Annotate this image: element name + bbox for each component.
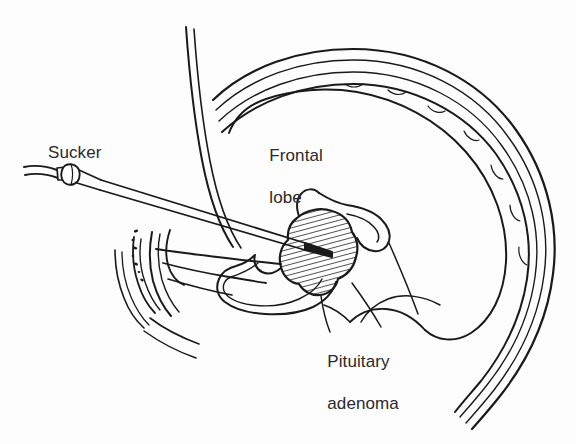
nasal-roof-upper bbox=[156, 249, 281, 264]
sucker-taper-upper bbox=[79, 170, 101, 180]
figure-canvas: Sucker Frontal lobe Pituitary adenoma bbox=[0, 0, 576, 444]
label-frontal-lobe-line1: Frontal bbox=[269, 146, 323, 165]
sucker-taper-lower bbox=[77, 183, 100, 190]
brain-undersurface bbox=[350, 309, 425, 330]
leader-line-sella-right bbox=[389, 243, 418, 314]
palate-lower bbox=[144, 331, 196, 358]
label-sucker: Sucker bbox=[48, 142, 102, 163]
sucker-hub bbox=[61, 164, 80, 185]
label-pituitary-adenoma-line2: adenoma bbox=[327, 394, 399, 413]
label-pituitary-adenoma-line1: Pituitary bbox=[327, 352, 389, 371]
label-frontal-lobe: Frontal lobe bbox=[250, 124, 323, 229]
leader-line-adenoma-left bbox=[321, 296, 330, 332]
brain-base-to-stalk bbox=[324, 305, 350, 322]
label-pituitary-adenoma: Pituitary adenoma bbox=[308, 330, 399, 435]
nasal-corridor-lower bbox=[163, 263, 266, 283]
sucker-tubing-upper bbox=[24, 166, 57, 170]
inferior-turbinate bbox=[166, 230, 184, 285]
sucker-tubing-lower bbox=[25, 174, 58, 178]
label-frontal-lobe-line2: lobe bbox=[269, 188, 302, 207]
